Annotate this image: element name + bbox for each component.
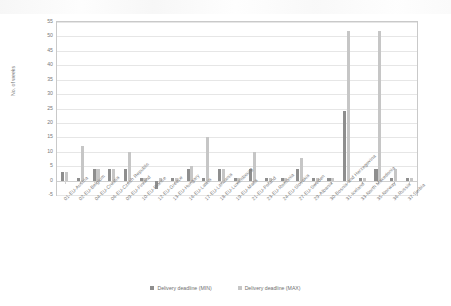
bar-group xyxy=(182,22,198,195)
bar-group xyxy=(323,22,339,195)
y-axis-title: No. of weeks xyxy=(10,66,16,96)
y-axis-tick-label: 55 xyxy=(27,19,53,24)
y-axis-tick-label: 15 xyxy=(27,135,53,140)
y-axis-tick-label: 20 xyxy=(27,120,53,125)
bar-max xyxy=(81,146,84,181)
y-axis-tick-label: 10 xyxy=(27,149,53,154)
y-axis-tick-label: 25 xyxy=(27,106,53,111)
bar-min xyxy=(374,169,377,181)
bar-min xyxy=(343,111,346,180)
bar-group xyxy=(401,22,417,195)
bar-chart: No. of weeks -50510152025303540455055 01… xyxy=(0,0,451,306)
chart-legend: Delivery deadline (MIN) Delivery deadlin… xyxy=(0,282,451,294)
bar-group xyxy=(276,22,292,195)
bar-max xyxy=(65,172,68,181)
bar-max xyxy=(253,152,256,181)
bar-min xyxy=(218,169,221,181)
bar-min xyxy=(296,169,299,181)
bar-group xyxy=(120,22,136,195)
y-axis-tick-label: 40 xyxy=(27,63,53,68)
legend-item-min: Delivery deadline (MIN) xyxy=(150,285,211,291)
bar-group xyxy=(104,22,120,195)
legend-label-min: Delivery deadline (MIN) xyxy=(157,285,211,291)
legend-item-max: Delivery deadline (MAX) xyxy=(238,285,301,291)
bar-min xyxy=(124,169,127,181)
bar-group xyxy=(260,22,276,195)
bar-max xyxy=(347,31,350,181)
bar-group xyxy=(73,22,89,195)
y-axis-tick-label: 5 xyxy=(27,164,53,169)
bar-max xyxy=(378,31,381,181)
bar-min xyxy=(108,169,111,181)
bar-group xyxy=(339,22,355,195)
bar-group xyxy=(57,22,73,195)
y-axis-tick-label: -5 xyxy=(27,192,53,197)
y-axis-tick-label: 0 xyxy=(27,178,53,183)
min-swatch-icon xyxy=(150,286,154,290)
bar-max xyxy=(206,137,209,180)
bar-min xyxy=(61,172,64,181)
bar-group xyxy=(88,22,104,195)
y-axis-tick-label: 50 xyxy=(27,34,53,39)
max-swatch-icon xyxy=(238,286,242,290)
x-axis-labels: 01-EU-Austria02-EU-Belgium04-EU-Croatia0… xyxy=(56,198,418,280)
y-axis-tick-label: 45 xyxy=(27,48,53,53)
bar-group xyxy=(198,22,214,195)
y-axis-tick-label: 30 xyxy=(27,91,53,96)
bar-group xyxy=(167,22,183,195)
x-axis-tickmark xyxy=(65,181,66,184)
y-axis-tick-label: 35 xyxy=(27,77,53,82)
bar-group xyxy=(151,22,167,195)
bar-group xyxy=(214,22,230,195)
bar-group xyxy=(370,22,386,195)
bar-group xyxy=(307,22,323,195)
bar-group xyxy=(292,22,308,195)
legend-label-max: Delivery deadline (MAX) xyxy=(245,285,301,291)
bar-group xyxy=(229,22,245,195)
